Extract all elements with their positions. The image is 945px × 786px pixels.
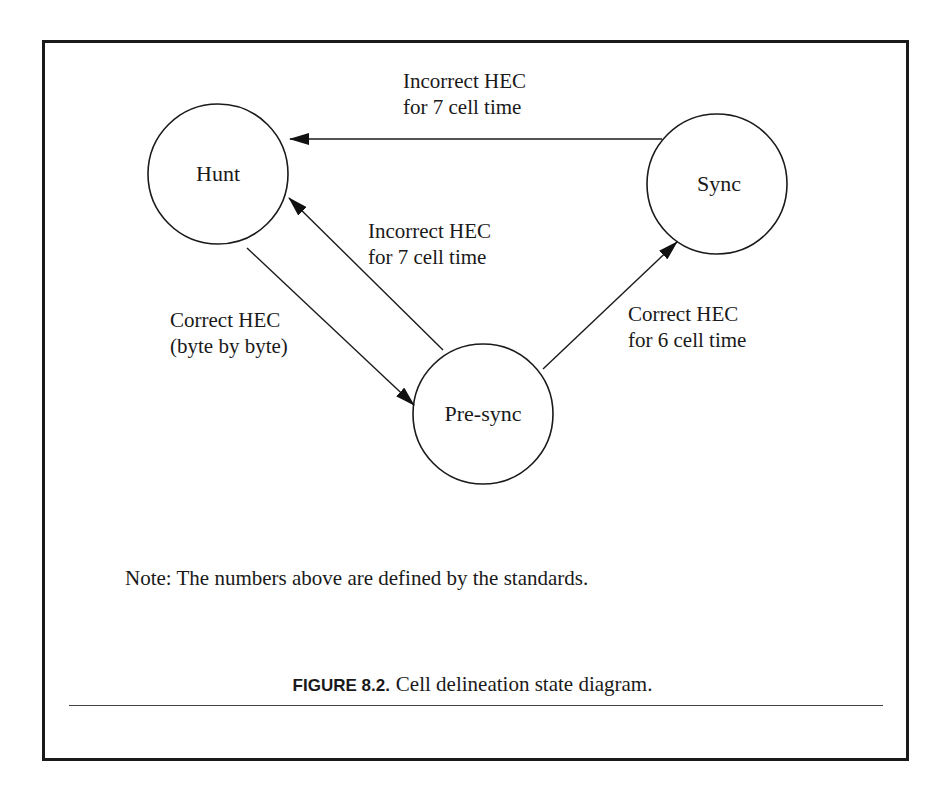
label-sync-to-hunt: Incorrect HEC for 7 cell time: [403, 69, 526, 119]
label-line: (byte by byte): [170, 334, 288, 358]
state-hunt-label: Hunt: [196, 161, 240, 186]
label-line: for 7 cell time: [403, 95, 521, 119]
label-line: Incorrect HEC: [403, 69, 526, 93]
state-diagram: Hunt Sync Pre-sync Incorrect HEC for 7 c…: [0, 0, 945, 786]
label-presync-to-sync: Correct HEC for 6 cell time: [628, 302, 746, 352]
label-line: for 7 cell time: [368, 245, 486, 269]
state-presync: Pre-sync: [413, 344, 553, 484]
label-line: for 6 cell time: [628, 328, 746, 352]
label-presync-to-hunt: Incorrect HEC for 7 cell time: [368, 219, 491, 269]
figure-number: FIGURE 8.2.: [293, 676, 390, 695]
state-hunt: Hunt: [148, 104, 288, 244]
label-line: Correct HEC: [628, 302, 738, 326]
caption-text: Cell delineation state diagram.: [396, 672, 653, 696]
label-hunt-to-presync: Correct HEC (byte by byte): [170, 308, 288, 358]
state-presync-label: Pre-sync: [445, 401, 522, 426]
state-sync: Sync: [647, 114, 787, 254]
label-line: Correct HEC: [170, 308, 280, 332]
diagram-note: Note: The numbers above are defined by t…: [125, 566, 588, 591]
figure-caption: FIGURE 8.2.Cell delineation state diagra…: [0, 672, 945, 697]
caption-rule: [69, 705, 883, 706]
label-line: Incorrect HEC: [368, 219, 491, 243]
state-sync-label: Sync: [697, 171, 741, 196]
